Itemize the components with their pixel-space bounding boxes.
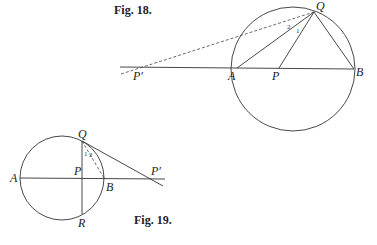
fig18-label-P: P — [271, 69, 280, 83]
fig18-angle-1: 1 — [296, 27, 300, 35]
fig19-angle-1: 1 — [84, 150, 88, 158]
fig18-label-P-prime: P′ — [132, 69, 143, 83]
geometry-figures: Fig. 18. Q A P B P′ 2 1 Q A P B R P′ 1 2… — [0, 0, 377, 245]
fig18-label-A: A — [227, 69, 236, 83]
fig18-label-Q: Q — [316, 0, 325, 13]
fig19-caption: Fig. 19. — [134, 213, 172, 227]
fig19-label-P: P — [73, 164, 82, 178]
fig18-label-B: B — [356, 65, 364, 79]
figure-19: Q A P B R P′ 1 2 Fig. 19. — [9, 127, 172, 230]
fig18-line-AQ — [237, 12, 314, 68]
fig19-label-P-prime: P′ — [150, 164, 161, 178]
fig18-dashed-line — [121, 12, 314, 74]
fig18-angle-2: 2 — [287, 23, 291, 31]
fig19-diameter-line — [20, 178, 165, 179]
fig19-dashed-QB — [82, 141, 104, 178]
fig19-angle-2: 2 — [89, 151, 93, 159]
fig19-label-B: B — [106, 180, 114, 194]
fig19-label-Q: Q — [78, 127, 87, 141]
figure-18: Fig. 18. Q A P B P′ 2 1 — [114, 0, 364, 131]
fig18-caption: Fig. 18. — [114, 3, 152, 17]
fig19-label-R: R — [77, 216, 86, 230]
fig18-line-PQ — [279, 12, 314, 68]
fig19-label-A: A — [9, 171, 18, 185]
